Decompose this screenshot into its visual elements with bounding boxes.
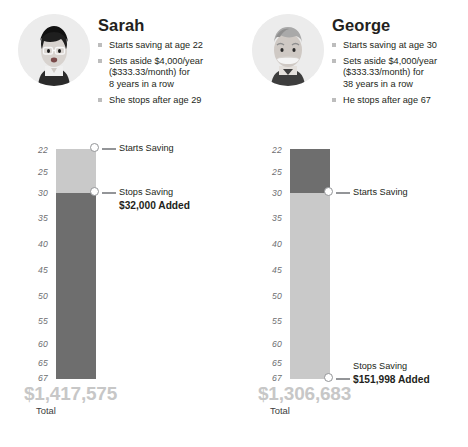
axis-tick: 60 [14,339,48,349]
axis-tick: 40 [248,239,282,249]
total-amount: $1,306,683 [258,383,468,405]
total-block: $1,417,575 Total [24,383,234,416]
axis-tick: 25 [248,167,282,177]
axis-tick: 65 [14,358,48,368]
leader-line [336,378,350,379]
list-item: Sets aside $4,000/year($333.33/month) fo… [332,56,466,91]
bullet-square-icon [332,59,336,63]
total-caption: Total [270,405,468,416]
bar-segment-growing [56,193,96,379]
axis-tick: 45 [248,265,282,275]
fact-text: Sets aside $4,000/year [109,56,203,66]
person-panel-sarah: Sarah Starts saving at age 22 Sets aside… [0,0,234,447]
bar-segment-growing [290,149,330,193]
bar-segment-saving [56,149,96,193]
list-item: Starts saving at age 22 [98,40,232,52]
total-amount: $1,417,575 [24,383,234,405]
fact-text: She stops after age 29 [109,95,201,105]
axis-tick: 67 [248,373,282,383]
person-name: Sarah [98,16,144,35]
bullet-square-icon [98,59,102,63]
axis-tick: 22 [14,145,48,155]
axis-tick: 65 [248,358,282,368]
total-caption: Total [36,405,234,416]
bullet-square-icon [98,43,102,47]
person-header: Sarah Starts saving at age 22 Sets aside… [14,8,228,128]
person-header: George Starts saving at age 30 Sets asid… [248,8,462,128]
person-facts: Starts saving at age 22 Sets aside $4,00… [98,40,232,111]
fact-text: Starts saving at age 22 [109,40,203,50]
axis-tick: 22 [248,145,282,155]
avatar-man-mustache-icon [252,14,324,86]
fact-text: He stops after age 67 [343,95,431,105]
avatar-woman-glasses-icon [18,14,90,86]
list-item: Sets aside $4,000/year($333.33/month) fo… [98,56,232,91]
savings-bar-chart-george: 22 25 30 35 40 45 50 55 60 65 67 Starts … [248,140,462,370]
savings-bar-chart-sarah: 22 25 30 35 40 45 50 55 60 65 67 Starts … [14,140,228,370]
fact-text: 8 years in a row [109,79,174,89]
marker-dot-icon [324,373,333,382]
axis-tick: 35 [14,213,48,223]
axis-tick: 55 [248,316,282,326]
marker-dot-icon [324,187,333,196]
marker-label: Stops Saving [119,187,173,197]
axis-tick: 55 [14,316,48,326]
leader-line [102,192,116,193]
age-axis: 22 25 30 35 40 45 50 55 60 65 67 [248,140,282,370]
axis-tick: 50 [248,291,282,301]
marker-amount: $32,000 Added [119,200,190,212]
axis-tick: 25 [14,167,48,177]
bullet-square-icon [98,98,102,102]
bar-column: Starts Saving Stops Saving $32,000 Added [56,140,96,370]
bullet-square-icon [332,43,336,47]
axis-tick: 40 [14,239,48,249]
marker-dot-icon [90,143,99,152]
fact-text: Starts saving at age 30 [343,40,437,50]
marker-label: Starts Saving [119,142,174,154]
list-item: She stops after age 29 [98,95,232,107]
list-item: Starts saving at age 30 [332,40,466,52]
axis-tick: 30 [14,188,48,198]
person-facts: Starts saving at age 30 Sets aside $4,00… [332,40,466,111]
axis-tick: 67 [14,373,48,383]
axis-tick: 30 [248,188,282,198]
bullet-square-icon [332,98,336,102]
bar-segment-saving [290,193,330,379]
axis-tick: 60 [248,339,282,349]
axis-tick: 45 [14,265,48,275]
age-axis: 22 25 30 35 40 45 50 55 60 65 67 [14,140,48,370]
marker-label: Starts Saving [353,186,408,198]
fact-text: 38 years in a row [343,79,413,89]
fact-text: Sets aside $4,000/year [343,56,437,66]
axis-tick: 35 [248,213,282,223]
bar-column: Starts Saving Stops Saving $151,998 Adde… [290,140,330,370]
list-item: He stops after age 67 [332,95,466,107]
leader-line [102,148,116,149]
fact-text: ($333.33/month) for [343,67,424,77]
person-name: George [332,16,390,35]
fact-text: ($333.33/month) for [109,67,190,77]
person-panel-george: George Starts saving at age 30 Sets asid… [234,0,468,447]
marker-label: Stops Saving [353,361,407,371]
axis-tick: 50 [14,291,48,301]
leader-line [336,192,350,193]
marker-dot-icon [90,187,99,196]
total-block: $1,306,683 Total [258,383,468,416]
